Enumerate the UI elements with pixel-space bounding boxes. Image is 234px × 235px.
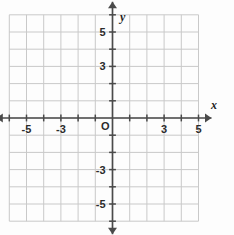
x-tick-label: 5 (195, 124, 201, 135)
y-tick-label: -5 (96, 199, 106, 210)
x-axis-label: x (211, 99, 217, 111)
coordinate-plane-figure: x y O -5-335 53-3-5 (0, 0, 234, 235)
axis-lines (0, 2, 211, 234)
origin-label: O (101, 121, 110, 132)
y-axis-label: y (120, 11, 125, 23)
x-tick-label: 3 (161, 124, 167, 135)
x-tick-label: -3 (56, 124, 66, 135)
y-tick-label: -3 (96, 164, 106, 175)
x-tick-label: -5 (22, 124, 32, 135)
y-tick-label: 5 (99, 27, 105, 38)
y-tick-label: 3 (99, 61, 105, 72)
coordinate-grid-svg (0, 0, 234, 235)
